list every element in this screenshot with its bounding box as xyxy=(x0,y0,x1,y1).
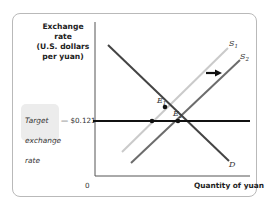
label-d: D xyxy=(228,160,236,169)
shift-arrow-icon xyxy=(215,70,222,77)
plot-area: S1 S2 D E1 E2 xyxy=(0,0,271,206)
demand-curve xyxy=(108,45,229,161)
label-s1: S1 xyxy=(229,39,238,49)
label-s2: S2 xyxy=(240,52,249,62)
supply-curve-s2 xyxy=(131,60,240,163)
s1-target-point xyxy=(150,119,155,124)
supply-curve-s1 xyxy=(122,48,228,152)
label-e1: E1 xyxy=(156,96,166,106)
point-e2 xyxy=(176,119,181,124)
label-e2: E2 xyxy=(172,109,183,119)
